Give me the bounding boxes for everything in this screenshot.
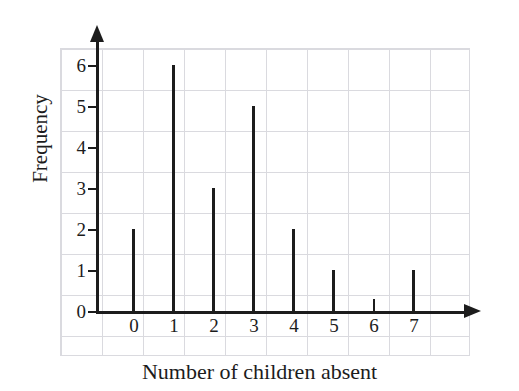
- y-axis-tick-label: 6: [64, 56, 86, 75]
- x-axis-tick-mark: [373, 299, 375, 312]
- bar-category-5: [332, 270, 335, 311]
- y-axis-line: [96, 40, 99, 314]
- y-axis-tick-mark: [88, 147, 97, 149]
- x-axis-arrowhead-icon: [464, 304, 481, 318]
- x-axis-tick-label: 0: [122, 316, 146, 336]
- bar-category-2: [212, 188, 215, 311]
- frequency-bar-chart-figure: 0 1 2 3 4 5 6 0 1 2 3 4 5 6 7 Frequency …: [0, 0, 519, 391]
- x-axis-title: Number of children absent: [0, 360, 519, 384]
- y-axis-tick-label: 3: [64, 179, 86, 198]
- y-axis-title: Frequency: [30, 74, 51, 204]
- y-axis-tick-mark: [88, 188, 97, 190]
- y-axis-tick-mark: [88, 65, 97, 67]
- x-axis-tick-label: 6: [362, 316, 386, 336]
- y-axis-tick-mark: [88, 270, 97, 272]
- bar-category-0: [132, 229, 135, 311]
- bar-category-3: [252, 106, 255, 311]
- chart-plot-area: 0 1 2 3 4 5 6 0 1 2 3 4 5 6 7: [0, 0, 519, 391]
- y-axis-arrowhead-icon: [90, 25, 104, 42]
- bar-category-4: [292, 229, 295, 311]
- y-axis-tick-mark: [88, 229, 97, 231]
- y-axis-tick-mark: [88, 106, 97, 108]
- y-axis-tick-mark: [88, 311, 97, 313]
- bar-category-7: [412, 270, 415, 311]
- x-axis-tick-label: 1: [162, 316, 186, 336]
- x-axis-tick-label: 3: [242, 316, 266, 336]
- x-axis-tick-label: 2: [202, 316, 226, 336]
- bar-category-1: [172, 65, 175, 311]
- y-axis-tick-label: 4: [64, 138, 86, 157]
- x-axis-tick-label: 7: [402, 316, 426, 336]
- y-axis-tick-label: 2: [64, 220, 86, 239]
- y-axis-tick-label: 1: [64, 261, 86, 280]
- y-axis-tick-label: 0: [64, 302, 86, 321]
- x-axis-tick-label: 4: [282, 316, 306, 336]
- y-axis-tick-label: 5: [64, 97, 86, 116]
- x-axis-tick-label: 5: [322, 316, 346, 336]
